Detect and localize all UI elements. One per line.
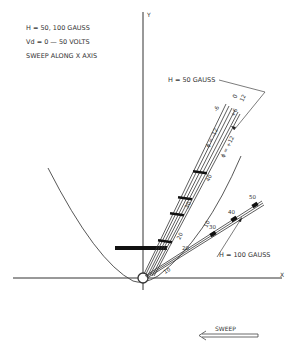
sweep-label: SWEEP: [215, 325, 236, 332]
x-axis-label: X: [280, 271, 284, 278]
h100-tick-50: 50: [249, 194, 256, 200]
note-sweep: SWEEP ALONG X AXIS: [26, 52, 97, 60]
phi-neg-label: ϕ = -12: [205, 127, 220, 149]
sweep-arrow-icon: [199, 331, 258, 340]
h50-tick-40: 40: [205, 173, 214, 182]
diagram: H = 50, 100 GAUSS Vd = 0 — 50 VOLTS SWEE…: [0, 0, 289, 349]
h100-tick-30: 30: [209, 224, 216, 230]
note-field: H = 50, 100 GAUSS: [26, 24, 90, 32]
phi-pos-small-label: +6: [230, 107, 239, 117]
y-axis-label: Y: [146, 11, 151, 18]
phi-neg-small-label: -6: [213, 104, 221, 112]
parabola-curve: [48, 156, 241, 282]
h100-tick-20: 20: [182, 245, 189, 251]
h50-label: H = 50 GAUSS: [168, 76, 215, 84]
diagram-canvas: H = 50, 100 GAUSS Vd = 0 — 50 VOLTS SWEE…: [0, 0, 289, 349]
h100-label: H = 100 GAUSS: [219, 251, 270, 259]
origin-circle: [138, 273, 148, 283]
h50-tip-0: 0: [231, 93, 239, 100]
h100-tick-40: 40: [228, 209, 235, 215]
h50-tip-12: 12: [239, 94, 247, 103]
phi-pos-label: ϕ = +12: [220, 135, 237, 159]
note-voltage: Vd = 0 — 50 VOLTS: [26, 38, 90, 46]
